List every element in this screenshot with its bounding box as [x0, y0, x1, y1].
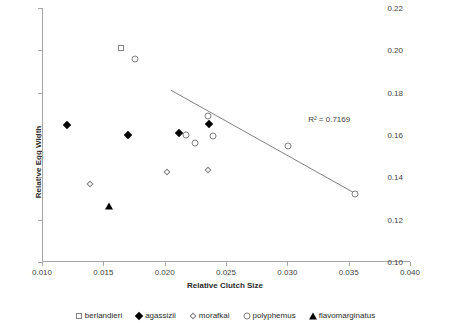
data-point-agassizii — [206, 121, 212, 127]
data-point-morafkai — [206, 167, 211, 172]
x-tick-mark — [287, 262, 288, 266]
scatter-chart: Relative Egg Width 0.100.120.140.160.180… — [0, 0, 450, 323]
filled-triangle-legend-icon — [309, 312, 317, 320]
filled-diamond-marker-icon — [205, 120, 213, 128]
y-tick-label: 0.18 — [387, 88, 403, 97]
legend-item-polyphemus[interactable]: polyphemus — [243, 311, 296, 320]
y-tick-mark — [38, 8, 42, 9]
x-tick-label: 0.015 — [93, 268, 113, 277]
open-circle-marker-icon — [243, 312, 250, 319]
r-squared-annotation: R² = 0.7169 — [308, 115, 350, 124]
open-square-marker-icon — [76, 313, 82, 319]
x-tick-mark — [410, 262, 411, 266]
x-tick-label: 0.035 — [339, 268, 359, 277]
open-square-marker-icon — [118, 45, 124, 51]
x-tick-mark — [165, 262, 166, 266]
filled-diamond-marker-icon — [135, 311, 143, 319]
y-tick-label: 0.22 — [387, 4, 403, 13]
filled-diamond-legend-icon — [135, 312, 143, 320]
data-point-polyphemus — [284, 143, 291, 150]
legend-item-morafkai[interactable]: morafkai — [189, 311, 230, 320]
trendline — [42, 8, 410, 262]
y-tick-mark — [38, 93, 42, 94]
x-tick-label: 0.025 — [216, 268, 236, 277]
x-tick-mark — [349, 262, 350, 266]
data-point-polyphemus — [351, 190, 358, 197]
y-tick-mark — [38, 220, 42, 221]
data-point-agassizii — [64, 122, 70, 128]
open-circle-marker-icon — [182, 132, 189, 139]
y-tick-mark — [38, 50, 42, 51]
legend-label: morafkai — [199, 311, 230, 320]
y-tick-label: 0.10 — [387, 258, 403, 267]
legend-label: agassizii — [145, 311, 176, 320]
open-circle-marker-icon — [131, 56, 138, 63]
legend-item-flavomarginatus[interactable]: flavomarginatus — [309, 311, 375, 320]
legend-label: polyphemus — [253, 311, 296, 320]
data-point-flavomarginatus — [105, 202, 113, 209]
y-tick-label: 0.16 — [387, 131, 403, 140]
y-tick-label: 0.14 — [387, 173, 403, 182]
filled-triangle-marker-icon — [309, 312, 317, 319]
x-tick-mark — [226, 262, 227, 266]
data-point-morafkai — [164, 170, 169, 175]
filled-diamond-marker-icon — [124, 131, 132, 139]
data-point-agassizii — [176, 130, 182, 136]
y-tick-mark — [38, 135, 42, 136]
data-point-morafkai — [88, 181, 93, 186]
data-point-polyphemus — [209, 133, 216, 140]
data-point-berlandieri — [118, 45, 124, 51]
open-diamond-marker-icon — [205, 166, 212, 173]
legend-label: berlandieri — [85, 311, 122, 320]
data-point-polyphemus — [205, 112, 212, 119]
legend-label: flavomarginatus — [319, 311, 375, 320]
open-circle-marker-icon — [191, 140, 198, 147]
data-point-polyphemus — [131, 56, 138, 63]
x-axis-title: Relative Clutch Size — [0, 281, 450, 290]
y-tick-label: 0.20 — [387, 46, 403, 55]
open-diamond-marker-icon — [189, 312, 196, 319]
x-tick-label: 0.010 — [32, 268, 52, 277]
open-circle-marker-icon — [284, 143, 291, 150]
x-tick-label: 0.030 — [277, 268, 297, 277]
open-diamond-marker-icon — [87, 180, 94, 187]
plot-area: 0.100.120.140.160.180.200.22 0.0100.0150… — [42, 8, 410, 262]
legend-item-berlandieri[interactable]: berlandieri — [75, 311, 122, 320]
open-square-legend-icon — [75, 312, 83, 320]
open-circle-marker-icon — [209, 133, 216, 140]
y-axis-line — [42, 8, 43, 262]
open-circle-marker-icon — [205, 112, 212, 119]
data-point-agassizii — [125, 132, 131, 138]
open-circle-marker-icon — [351, 190, 358, 197]
filled-diamond-marker-icon — [63, 121, 71, 129]
x-tick-mark — [42, 262, 43, 266]
data-point-polyphemus — [191, 140, 198, 147]
open-diamond-legend-icon — [189, 312, 197, 320]
y-tick-mark — [38, 177, 42, 178]
x-tick-label: 0.020 — [155, 268, 175, 277]
filled-triangle-marker-icon — [105, 202, 113, 209]
open-diamond-marker-icon — [163, 168, 170, 175]
open-circle-legend-icon — [243, 312, 251, 320]
chart-legend: berlandieriagassiziimorafkaipolyphemusfl… — [0, 311, 450, 320]
x-tick-mark — [103, 262, 104, 266]
data-point-polyphemus — [182, 132, 189, 139]
y-tick-label: 0.12 — [387, 215, 403, 224]
x-tick-label: 0.040 — [400, 268, 420, 277]
legend-item-agassizii[interactable]: agassizii — [135, 311, 176, 320]
